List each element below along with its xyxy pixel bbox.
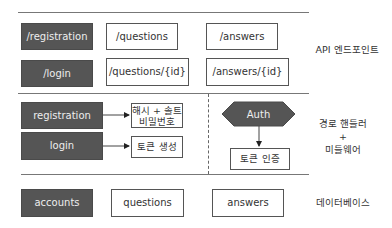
handler-label-line3: 미들웨어 [310, 143, 376, 156]
auth-middleware: Auth [222, 102, 295, 126]
hash-salt-box: 해시 + 솔트 비밀번호 [131, 103, 183, 128]
handler-layer-label: 경로 핸들러 + 미들웨어 [310, 117, 376, 156]
accounts-table: accounts [21, 189, 93, 217]
token-generate-box: 토큰 생성 [131, 136, 183, 158]
auth-label: Auth [247, 109, 270, 120]
questions-table-label: questions [123, 197, 171, 209]
dashed-separator [208, 94, 209, 174]
handler-label-line2: + [310, 130, 376, 143]
accounts-table-label: accounts [34, 197, 79, 209]
token-verify-box: 토큰 인증 [230, 148, 290, 170]
answers-table: answers [212, 189, 284, 217]
answers-table-label: answers [227, 197, 268, 209]
token-generate-label: 토큰 생성 [137, 141, 176, 153]
handler-label-line1: 경로 핸들러 [310, 117, 376, 130]
hash-salt-line2: 비밀번호 [139, 116, 175, 127]
token-verify-label: 토큰 인증 [240, 153, 279, 165]
hash-salt-line1: 해시 + 솔트 [132, 105, 182, 116]
questions-table: questions [111, 189, 184, 217]
database-layer-label: 데이터베이스 [310, 196, 376, 209]
